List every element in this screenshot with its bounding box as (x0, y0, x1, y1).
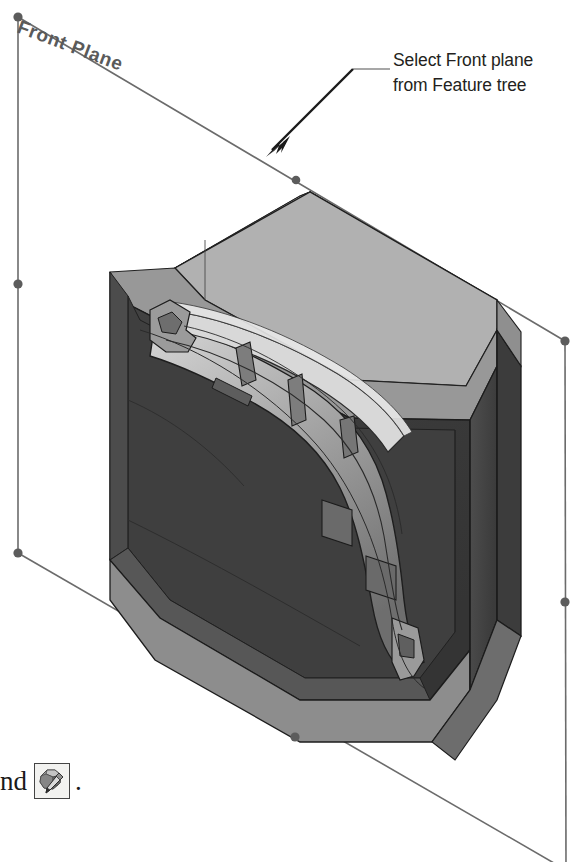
mold-block (110, 192, 521, 760)
cad-scene (0, 0, 582, 862)
plane-handle-corner-top-right[interactable] (560, 336, 569, 345)
plane-handle-midpoint-bottom[interactable] (290, 732, 299, 741)
leader-arrowhead-fill (267, 136, 290, 156)
plane-handle-corner-bottom-left[interactable] (13, 548, 22, 557)
caption-text-before: nd (0, 766, 27, 796)
callout-line-2: from Feature tree (393, 73, 582, 98)
callout-text: Select Front plane from Feature tree (393, 48, 582, 98)
plane-handle-midpoint-left[interactable] (13, 279, 22, 288)
edit-sketch-icon-glyph (35, 764, 67, 796)
caption-row: nd . (0, 763, 82, 799)
plane-handle-midpoint-right[interactable] (560, 597, 569, 606)
edit-sketch-icon[interactable] (34, 763, 70, 799)
cavity-left-wall (110, 272, 128, 560)
callout-line-1: Select Front plane (393, 48, 582, 73)
callout-leader (266, 69, 390, 157)
plane-handle-midpoint-top[interactable] (292, 176, 301, 185)
block-right-outer-slab (497, 330, 521, 636)
caption-text-after: . (75, 766, 82, 796)
illustration-stage: Front Plane Select Front plane from Feat… (0, 0, 582, 862)
leader-shaft (272, 69, 353, 150)
